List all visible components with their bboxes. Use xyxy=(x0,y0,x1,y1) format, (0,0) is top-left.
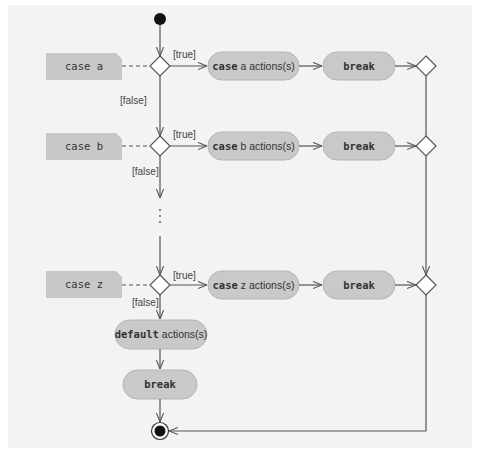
case-z-break-label: break xyxy=(343,279,375,291)
case-a-break-label: break xyxy=(343,60,375,72)
case-b-action-label: case b actions(s) xyxy=(212,140,294,152)
case-b-row: case b [true] case b actions(s) break [f… xyxy=(46,129,436,177)
case-b-break-label: break xyxy=(343,140,375,152)
case-a-row: case a [true] case a actions(s) break [f… xyxy=(46,49,436,106)
decision-a-diamond-icon xyxy=(150,56,170,76)
initial-node-icon xyxy=(154,13,166,25)
merge-line-to-final xyxy=(169,295,426,431)
case-a-guard-true: [true] xyxy=(173,49,196,60)
activity-diagram: case a [true] case a actions(s) break [f… xyxy=(0,0,482,459)
case-z-note-label: case z xyxy=(65,278,103,290)
default-action-label: default actions(s) xyxy=(115,328,208,340)
default-break-label: break xyxy=(144,378,176,390)
case-z-guard-true: [true] xyxy=(173,270,196,281)
merge-z-diamond-icon xyxy=(416,275,436,295)
merge-a-diamond-icon xyxy=(416,56,436,76)
merge-b-diamond-icon xyxy=(416,136,436,156)
case-z-action-label: case z actions(s) xyxy=(213,279,295,291)
case-z-guard-false: [false] xyxy=(132,297,159,308)
case-a-guard-false: [false] xyxy=(120,95,147,106)
case-a-action-label: case a actions(s) xyxy=(212,60,294,72)
case-b-note-label: case b xyxy=(65,140,103,152)
ellipsis-icon xyxy=(159,209,161,223)
default-row: default actions(s) break xyxy=(115,320,208,422)
case-b-guard-false: [false] xyxy=(132,166,159,177)
decision-b-diamond-icon xyxy=(150,136,170,156)
case-a-note-label: case a xyxy=(65,60,103,72)
case-b-guard-true: [true] xyxy=(173,129,196,140)
final-node-icon xyxy=(152,423,169,440)
case-z-row: case z [true] case z actions(s) break [f… xyxy=(46,270,436,308)
decision-z-diamond-icon xyxy=(150,275,170,295)
